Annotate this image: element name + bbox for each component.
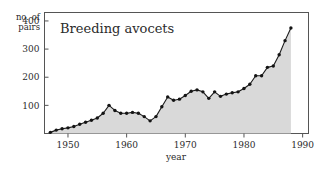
data-point xyxy=(60,127,63,130)
data-point xyxy=(254,74,257,77)
data-point xyxy=(178,97,181,100)
chart-title: Breeding avocets xyxy=(60,21,174,36)
x-tick-label: 1950 xyxy=(57,140,80,150)
data-point xyxy=(277,53,280,56)
x-tick-label: 1980 xyxy=(233,140,256,150)
y-tick-label: 100 xyxy=(22,101,39,111)
data-point xyxy=(72,125,75,128)
data-point xyxy=(260,74,263,77)
data-point xyxy=(272,64,275,67)
data-point xyxy=(189,90,192,93)
data-point xyxy=(113,109,116,112)
data-point xyxy=(119,112,122,115)
y-tick-label: 300 xyxy=(22,44,39,54)
data-point xyxy=(107,104,110,107)
data-point xyxy=(283,39,286,42)
data-point xyxy=(55,128,58,131)
data-point xyxy=(172,99,175,102)
data-point xyxy=(195,88,198,91)
x-axis-ticks: 19501960197019801990 xyxy=(57,134,315,150)
x-axis-label: year xyxy=(165,152,187,162)
data-point xyxy=(231,91,234,94)
data-point xyxy=(236,90,239,93)
data-point xyxy=(96,116,99,119)
y-axis-label-line2: pairs xyxy=(18,22,40,32)
data-point xyxy=(101,112,104,115)
data-point xyxy=(154,115,157,118)
breeding-avocets-area-chart: 100200300400 19501960197019801990 no. of… xyxy=(0,0,332,172)
data-point xyxy=(66,126,69,129)
data-point xyxy=(207,97,210,100)
data-point xyxy=(90,119,93,122)
data-point xyxy=(225,92,228,95)
data-point xyxy=(148,119,151,122)
data-point xyxy=(242,87,245,90)
data-point xyxy=(160,105,163,108)
data-point xyxy=(49,131,52,134)
y-axis-label-line1: no. of xyxy=(16,12,41,22)
x-tick-label: 1960 xyxy=(115,140,138,150)
data-point xyxy=(131,111,134,114)
x-tick-label: 1990 xyxy=(291,140,314,150)
chart-figure: 100200300400 19501960197019801990 no. of… xyxy=(0,0,332,172)
data-point xyxy=(266,66,269,69)
data-point xyxy=(125,112,128,115)
data-point xyxy=(78,123,81,126)
data-point xyxy=(248,83,251,86)
data-point xyxy=(84,121,87,124)
area-fill xyxy=(50,28,291,134)
x-tick-label: 1970 xyxy=(174,140,197,150)
data-point xyxy=(219,95,222,98)
data-point xyxy=(184,94,187,97)
data-point xyxy=(213,90,216,93)
data-point xyxy=(143,115,146,118)
data-point xyxy=(137,112,140,115)
data-point xyxy=(201,90,204,93)
data-point xyxy=(289,26,292,29)
y-tick-label: 200 xyxy=(22,72,39,82)
data-point xyxy=(166,95,169,98)
